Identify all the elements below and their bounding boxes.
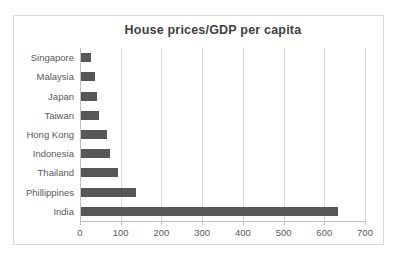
x-axis-line (80, 221, 366, 222)
gridline (365, 48, 366, 221)
bar (81, 188, 136, 197)
x-tick-label: 500 (264, 227, 304, 238)
plot-area: 0100200300400500600700SingaporeMalaysiaJ… (0, 0, 401, 262)
gridline (284, 48, 285, 221)
bar (81, 53, 91, 62)
category-label: Japan (13, 90, 74, 103)
bar (81, 92, 97, 101)
category-label: Indonesia (13, 147, 74, 160)
gridline (243, 48, 244, 221)
category-label: Taiwan (13, 109, 74, 122)
category-label: India (13, 205, 74, 218)
x-tick-label: 400 (223, 227, 263, 238)
category-label: Hong Kong (13, 128, 74, 141)
gridline (161, 48, 162, 221)
x-tick-label: 200 (141, 227, 181, 238)
gridline (324, 48, 325, 221)
category-label: Phillippines (13, 186, 74, 199)
category-label: Malaysia (13, 70, 74, 83)
x-tick-label: 100 (101, 227, 141, 238)
x-tick-label: 0 (60, 227, 100, 238)
x-tick-label: 300 (182, 227, 222, 238)
x-tick-label: 700 (345, 227, 385, 238)
bar (81, 72, 95, 81)
bar (81, 168, 118, 177)
chart-canvas: House prices/GDP per capita 010020030040… (0, 0, 401, 262)
bar (81, 207, 338, 216)
bar (81, 149, 110, 158)
gridline (202, 48, 203, 221)
bar (81, 130, 107, 139)
category-label: Singapore (13, 51, 74, 64)
category-label: Thailand (13, 166, 74, 179)
x-tick-label: 600 (304, 227, 344, 238)
bar (81, 111, 99, 120)
